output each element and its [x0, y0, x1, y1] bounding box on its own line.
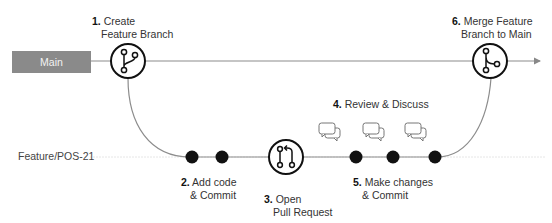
step-text: Pull Request [264, 206, 333, 218]
step-text: & Commit [353, 189, 408, 201]
main-branch-label: Main [12, 51, 91, 73]
step-number: 4. [333, 98, 342, 110]
step-text: Branch to Main [452, 28, 532, 40]
git-merge-icon [473, 44, 507, 78]
commit-dot [387, 151, 400, 164]
step-2-label: 2. Add code & Commit [181, 176, 236, 202]
branch-off-curve [128, 78, 190, 157]
commit-dot [429, 151, 442, 164]
chat-bubbles-icon [319, 123, 426, 141]
step-number: 5. [353, 176, 362, 188]
pull-request-icon [269, 140, 303, 174]
commit-dot [186, 151, 199, 164]
step-1-label: 1. Create Feature Branch [92, 15, 173, 41]
step-3-label: 3. Open Pull Request [264, 193, 333, 219]
step-number: 1. [92, 15, 101, 27]
step-text: & Commit [181, 189, 236, 201]
step-6-label: 6. Merge Feature Branch to Main [452, 15, 533, 41]
step-text: Make changes [365, 176, 433, 188]
git-branch-icon [111, 44, 145, 78]
merge-curve [437, 78, 491, 157]
feature-branch-label: Feature/POS-21 [18, 150, 94, 162]
step-text: Open [276, 193, 302, 205]
step-5-label: 5. Make changes & Commit [353, 176, 433, 202]
commit-dot [350, 151, 363, 164]
step-text: Feature Branch [92, 28, 173, 40]
step-text: Review & Discuss [345, 98, 429, 110]
step-text: Create [104, 15, 136, 27]
step-4-label: 4. Review & Discuss [333, 98, 429, 111]
commit-dot [216, 151, 229, 164]
step-number: 6. [452, 15, 461, 27]
step-number: 2. [181, 176, 190, 188]
step-text: Merge Feature [464, 15, 533, 27]
step-number: 3. [264, 193, 273, 205]
step-text: Add code [192, 176, 236, 188]
